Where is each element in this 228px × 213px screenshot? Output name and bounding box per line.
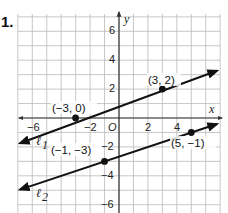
x-tick-neg6: −6 [27,121,40,133]
x-tick-neg2: −2 [84,121,97,133]
x-tick-origin: O [108,121,117,133]
svg-text:1: 1 [42,138,48,152]
point-3-2 [159,86,166,93]
point-label-neg1-neg3: (−1, −3) [51,144,91,156]
y-tick-6: 6 [109,24,115,36]
point-label-5-neg1: (5, −1) [171,137,205,149]
svg-text:2: 2 [42,190,48,204]
x-axis-label: x [208,102,215,116]
y-axis-label: y [123,12,130,26]
point-neg1-neg3 [101,158,108,165]
x-tick-2: 2 [145,121,151,133]
point-neg3-0 [72,115,79,122]
svg-text:ℓ: ℓ [36,186,41,200]
coordinate-plane: x y −6 −2 O 2 4 6 4 2 −2 −4 −6 (−3, 0) (… [0,0,228,213]
line-label-l1: ℓ 1 [36,134,48,152]
svg-text:ℓ: ℓ [36,134,41,148]
point-label-neg3-0: (−3, 0) [52,102,86,114]
point-5-neg1 [188,129,195,136]
point-label-3-2: (3, 2) [148,74,175,86]
line-label-l2: ℓ 2 [36,186,48,204]
y-tick-neg6: −6 [101,198,114,210]
y-tick-4: 4 [109,53,115,65]
y-tick-neg2: −2 [101,140,114,152]
x-tick-4: 4 [174,121,180,133]
y-tick-neg4: −4 [101,169,114,181]
y-tick-2: 2 [109,82,115,94]
